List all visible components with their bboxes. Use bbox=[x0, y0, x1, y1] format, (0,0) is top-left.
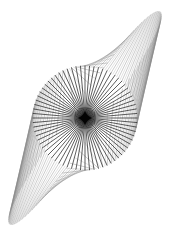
line-art-figure bbox=[0, 0, 169, 240]
dense-core bbox=[74, 107, 96, 129]
